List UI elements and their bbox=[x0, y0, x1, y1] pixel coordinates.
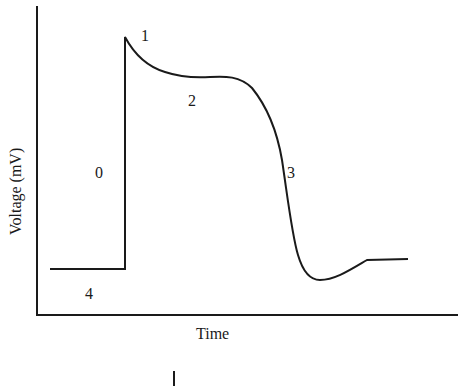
phase-4-label: 4 bbox=[85, 285, 93, 302]
x-axis-label: Time bbox=[196, 325, 229, 342]
diagram-svg: 0 1 2 3 4 Time Voltage (mV) bbox=[0, 0, 472, 386]
phase-0-label: 0 bbox=[95, 164, 103, 181]
phase-2-label: 2 bbox=[188, 92, 196, 109]
action-potential-curve bbox=[50, 37, 408, 280]
y-axis-label: Voltage (mV) bbox=[7, 148, 25, 235]
action-potential-diagram: 0 1 2 3 4 Time Voltage (mV) bbox=[0, 0, 472, 386]
phase-3-label: 3 bbox=[287, 164, 295, 181]
phase-1-label: 1 bbox=[141, 27, 149, 44]
